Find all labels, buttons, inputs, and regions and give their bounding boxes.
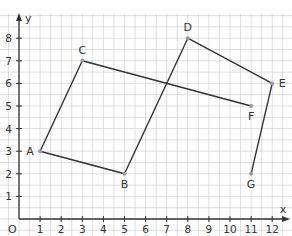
x-tick-label: 6 bbox=[142, 223, 149, 235]
x-axis-arrow-icon bbox=[282, 216, 290, 222]
y-tick-label: 6 bbox=[5, 77, 12, 89]
coordinate-diagram: 12345678910111212345678OxyABCDEFG bbox=[0, 0, 292, 236]
x-tick-label: 9 bbox=[206, 223, 213, 235]
y-axis-label: y bbox=[25, 12, 32, 25]
y-tick-label: 2 bbox=[5, 168, 12, 180]
origin-label: O bbox=[8, 223, 17, 236]
y-tick-label: 1 bbox=[5, 190, 12, 202]
coordinate-plane: 12345678910111212345678OxyABCDEFG bbox=[0, 0, 292, 236]
y-tick-label: 5 bbox=[5, 100, 12, 112]
point-G bbox=[249, 172, 253, 176]
point-F bbox=[249, 104, 253, 108]
point-label-C: C bbox=[78, 44, 86, 57]
y-axis-arrow-icon bbox=[16, 13, 22, 21]
point-label-G: G bbox=[247, 178, 256, 191]
point-label-E: E bbox=[279, 77, 286, 90]
y-tick-label: 7 bbox=[5, 55, 12, 67]
x-axis-label: x bbox=[280, 203, 287, 216]
x-tick-label: 5 bbox=[121, 223, 128, 235]
point-label-D: D bbox=[184, 21, 192, 34]
y-tick-label: 4 bbox=[5, 123, 12, 135]
x-tick-label: 3 bbox=[79, 223, 86, 235]
point-B bbox=[123, 172, 127, 176]
point-A bbox=[38, 149, 42, 153]
point-label-F: F bbox=[248, 110, 254, 123]
point-D bbox=[186, 36, 190, 40]
y-tick-label: 8 bbox=[5, 32, 12, 44]
x-tick-label: 4 bbox=[100, 223, 107, 235]
x-tick-label: 1 bbox=[37, 223, 44, 235]
x-tick-label: 8 bbox=[184, 223, 191, 235]
point-label-A: A bbox=[26, 145, 34, 158]
x-tick-label: 2 bbox=[58, 223, 65, 235]
x-tick-label: 10 bbox=[223, 223, 236, 235]
point-C bbox=[80, 59, 84, 63]
point-E bbox=[270, 81, 274, 85]
y-tick-label: 3 bbox=[5, 145, 12, 157]
x-tick-label: 7 bbox=[163, 223, 170, 235]
x-tick-label: 11 bbox=[244, 223, 257, 235]
x-tick-label: 12 bbox=[266, 223, 279, 235]
point-label-B: B bbox=[121, 178, 129, 191]
